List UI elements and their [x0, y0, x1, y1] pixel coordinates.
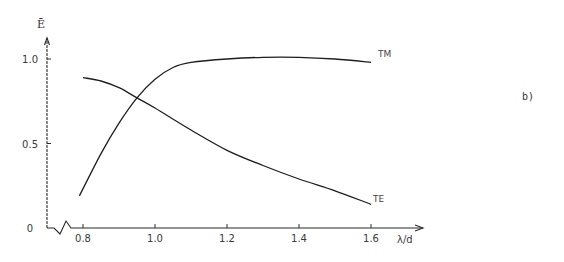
y-axis-title: Ē	[37, 18, 45, 31]
curves	[79, 57, 371, 204]
axes	[45, 38, 424, 234]
x-tick-label: 1.4	[291, 233, 307, 244]
x-tick-label: 1.2	[219, 233, 235, 244]
x-tick-label: 0.8	[75, 233, 91, 244]
labels: Ē λ/d b) TM TE	[37, 18, 534, 245]
series-label-te: TE	[372, 194, 384, 204]
series-label-tm: TM	[377, 49, 391, 59]
panel-label: b)	[522, 91, 534, 102]
series-line-te	[83, 78, 371, 205]
y-tick-label: 0.5	[22, 139, 38, 150]
chart: 0.81.01.21.41.600.51.0 Ē λ/d b) TM TE	[0, 0, 564, 262]
x-axis-title: λ/d	[397, 234, 413, 245]
x-tick-label: 1.0	[147, 233, 163, 244]
series-line-tm	[79, 57, 371, 196]
ticks: 0.81.01.21.41.600.51.0	[22, 54, 379, 244]
y-tick-label: 1.0	[22, 54, 38, 65]
y-tick-label: 0	[27, 223, 33, 234]
x-tick-label: 1.6	[363, 233, 379, 244]
